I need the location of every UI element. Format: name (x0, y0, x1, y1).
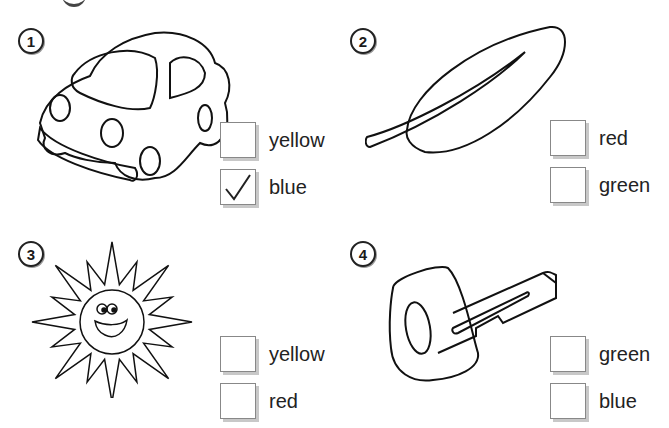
checkbox[interactable] (220, 383, 256, 419)
checkmark-icon (223, 172, 253, 202)
option-3-red[interactable]: red (220, 383, 298, 419)
key-picture (388, 258, 588, 393)
option-label: green (599, 174, 650, 197)
option-label: blue (269, 176, 307, 199)
option-label: yellow (269, 129, 325, 152)
checkbox[interactable] (550, 383, 586, 419)
checkbox[interactable] (220, 122, 256, 158)
option-label: green (599, 343, 650, 366)
option-3-yellow[interactable]: yellow (220, 336, 325, 372)
exercise-number-4: 4 (350, 241, 376, 267)
option-label: red (269, 390, 298, 413)
option-2-red[interactable]: red (550, 120, 628, 156)
header-icon-fragment (62, 0, 86, 7)
checkbox[interactable] (550, 167, 586, 203)
leaf-picture (365, 22, 570, 167)
car-picture (35, 28, 235, 188)
sun-picture (30, 238, 195, 398)
checkbox-checked[interactable] (220, 169, 256, 205)
option-2-green[interactable]: green (550, 167, 650, 203)
option-1-blue[interactable]: blue (220, 169, 307, 205)
option-4-green[interactable]: green (550, 336, 650, 372)
checkbox[interactable] (220, 336, 256, 372)
option-1-yellow[interactable]: yellow (220, 122, 325, 158)
option-label: yellow (269, 343, 325, 366)
checkbox[interactable] (550, 120, 586, 156)
option-label: red (599, 127, 628, 150)
checkbox[interactable] (550, 336, 586, 372)
option-label: blue (599, 390, 637, 413)
option-4-blue[interactable]: blue (550, 383, 637, 419)
